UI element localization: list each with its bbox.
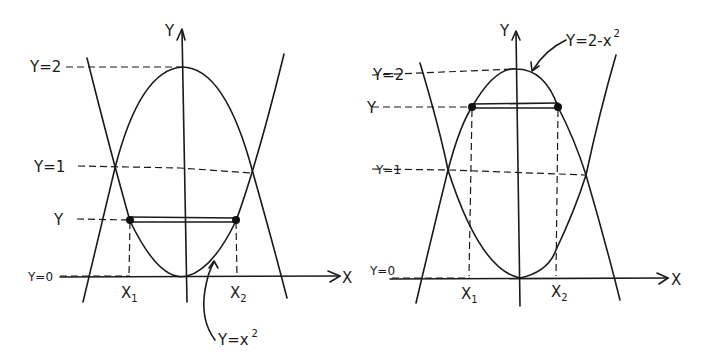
left-y1-guide: [78, 166, 253, 173]
left-y-axis-label: Y: [164, 22, 175, 40]
left-label-y1: Y=1: [33, 158, 65, 176]
right-panel: Y X Y=2 Y Y=1 Y=0 X1 X2 Y=2-x2: [366, 22, 681, 306]
left-label-y0: Y=0: [27, 270, 53, 284]
left-segment-top: [130, 217, 236, 218]
right-y-axis: [516, 32, 520, 306]
right-point-x2: [554, 103, 562, 111]
right-label-y0: Y=0: [369, 264, 395, 278]
left-label-x2: X2: [230, 284, 247, 304]
right-segment-top: [472, 103, 558, 104]
left-x-axis: [60, 276, 340, 277]
right-label-x1: X1: [461, 285, 478, 305]
left-y-axis: [182, 30, 187, 302]
right-x1-drop: [469, 110, 472, 276]
left-label-x1: X1: [121, 284, 138, 304]
right-y-axis-label: Y: [499, 22, 510, 40]
right-label-yvar: Y: [366, 99, 377, 117]
left-label-yvar: Y: [53, 211, 64, 229]
right-point-x1: [468, 103, 476, 111]
left-y-arrow-icon: [177, 29, 185, 40]
right-curve-label: Y=2-x2: [565, 28, 620, 50]
left-curve-pointer-arrow-icon: [204, 262, 215, 340]
left-point-x1: [126, 216, 134, 224]
left-label-y2: Y=2: [29, 58, 61, 76]
right-curve-pointer-arrow-icon: [533, 40, 566, 70]
right-label-y2: Y=2: [372, 66, 404, 84]
right-label-x2: X2: [551, 283, 568, 303]
left-x1-drop: [129, 222, 130, 276]
left-x2-drop: [236, 222, 237, 276]
right-y1-guide: [372, 169, 586, 175]
right-x-axis-label: X: [671, 271, 681, 289]
right-x-axis: [390, 278, 668, 279]
left-panel: Y X Y=2 Y=1 Y Y=0 X1 X2 Y=x2: [27, 22, 352, 349]
left-point-x2: [232, 216, 240, 224]
right-label-y1: Y=1: [375, 163, 401, 177]
diagram-canvas: Y X Y=2 Y=1 Y Y=0 X1 X2 Y=x2: [0, 0, 712, 360]
left-curve-label: Y=x2: [217, 328, 258, 349]
left-x-axis-label: X: [342, 269, 352, 287]
